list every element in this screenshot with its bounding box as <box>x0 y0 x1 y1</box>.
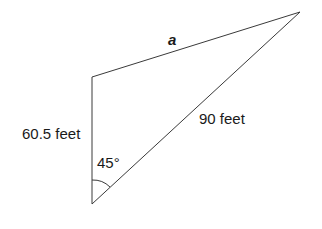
hypotenuse-label: 90 feet <box>199 111 245 126</box>
left-side-label: 60.5 feet <box>22 126 80 141</box>
triangle-diagram: a 60.5 feet 90 feet 45° <box>0 0 322 229</box>
side-a-label: a <box>168 32 176 47</box>
hypotenuse-line <box>92 12 300 204</box>
angle-label: 45° <box>97 155 120 170</box>
angle-arc <box>92 180 110 187</box>
side-a-line <box>92 12 300 77</box>
triangle-figure <box>0 0 322 229</box>
